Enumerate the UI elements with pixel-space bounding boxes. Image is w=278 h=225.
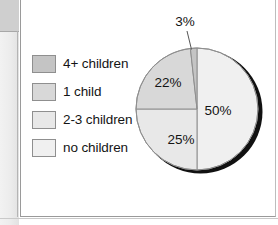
legend-swatch-icon [32, 83, 56, 101]
pie-value-label-50: 50% [204, 103, 231, 118]
legend-swatch-icon [32, 111, 56, 129]
gutter-rule [17, 31, 18, 217]
figure-panel: 4+ children 1 child 2-3 children no chil… [20, 0, 276, 217]
legend-label: 4+ children [63, 56, 128, 71]
legend-label: 1 child [63, 84, 101, 99]
legend-swatch-icon [32, 55, 56, 73]
legend-label: no children [63, 140, 128, 155]
gutter-header-block [0, 0, 19, 32]
pie-chart: 50% 25% 22% 3% [121, 4, 277, 194]
pie-slices [136, 48, 258, 170]
scanned-page: 4+ children 1 child 2-3 children no chil… [0, 0, 278, 225]
pie-value-label-22: 22% [154, 75, 181, 90]
pie-leader-line-3pct [187, 31, 192, 50]
pie-chart-svg: 50% 25% 22% 3% [121, 4, 277, 194]
pie-value-label-3: 3% [175, 14, 195, 29]
pie-value-label-25: 25% [167, 132, 194, 147]
page-bottom-rule [0, 218, 278, 219]
legend-swatch-icon [32, 139, 56, 157]
